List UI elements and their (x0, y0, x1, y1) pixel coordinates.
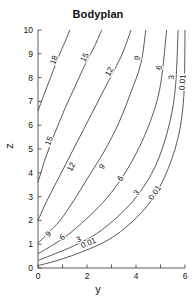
contour-line (38, 30, 70, 111)
svg-text:2: 2 (85, 271, 90, 281)
svg-text:4: 4 (134, 271, 139, 281)
contour-labels-group: 181815151515121212129999996666663333330.… (43, 51, 187, 250)
svg-text:7: 7 (28, 96, 33, 106)
contour-label: 3 (167, 74, 176, 80)
contour-lines-group (38, 30, 185, 266)
contour-label: 12 (103, 65, 115, 78)
svg-text:1: 1 (28, 239, 33, 249)
contour-label: 6 (115, 174, 125, 183)
svg-text:9: 9 (28, 49, 33, 59)
svg-text:0: 0 (36, 271, 41, 281)
contour-label: 0.01 (147, 183, 164, 201)
svg-text:4: 4 (28, 168, 33, 178)
contour-label: 0.01 (80, 236, 98, 250)
figure-canvas: Bodyplan 0123456789100246 18181515151512… (0, 0, 196, 305)
contour-label: 9 (132, 54, 142, 61)
svg-text:2: 2 (28, 215, 33, 225)
svg-text:6: 6 (183, 271, 188, 281)
svg-text:0: 0 (28, 263, 33, 273)
contour-line (38, 30, 102, 182)
contour-label: 15 (79, 51, 91, 63)
contour-label: 18 (48, 54, 60, 66)
svg-text:6: 6 (28, 120, 33, 130)
contour-plot: 0123456789100246 18181515151512121212999… (0, 0, 196, 305)
contour-label: 0.01 (177, 74, 187, 91)
x-axis-label: y (0, 283, 196, 295)
contour-label: 9 (97, 162, 107, 171)
svg-text:3: 3 (28, 192, 33, 202)
svg-text:10: 10 (24, 25, 34, 35)
contour-line (38, 30, 178, 260)
y-axis-label: z (3, 131, 15, 161)
contour-label: 9 (44, 229, 54, 239)
svg-text:8: 8 (28, 73, 33, 83)
svg-text:5: 5 (28, 144, 33, 154)
